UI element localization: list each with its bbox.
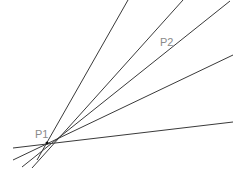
point-p1 bbox=[46, 142, 49, 145]
line-4 bbox=[32, 0, 183, 168]
line-3 bbox=[22, 1, 230, 167]
label-p1: P1 bbox=[35, 128, 48, 140]
geometry-canvas: P1P2 bbox=[0, 0, 237, 177]
label-p2: P2 bbox=[160, 36, 173, 48]
